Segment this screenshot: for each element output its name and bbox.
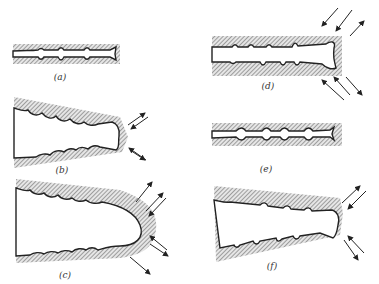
panel-label-d: (d) (262, 81, 275, 91)
panel-b: (b) (14, 97, 148, 175)
panel-a: (a) (13, 44, 120, 82)
panel-label-f: (f) (267, 261, 278, 271)
panel-label-c: (c) (59, 270, 72, 280)
panel-label-b: (b) (56, 165, 69, 175)
panel-c: (c) (16, 179, 168, 280)
panel-label-e: (e) (260, 164, 273, 174)
panel-e: (e) (212, 123, 342, 174)
panel-f: (f) (214, 186, 366, 271)
crack-growth-diagram: (a) (b) (c) (d) (e) (0, 0, 379, 284)
panel-d: (d) (212, 8, 364, 100)
panel-label-a: (a) (54, 72, 67, 82)
